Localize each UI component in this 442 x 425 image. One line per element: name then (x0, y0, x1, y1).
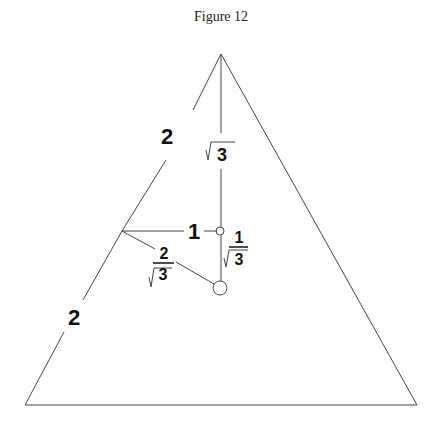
left-side-bottom (25, 332, 64, 405)
left-side-top (193, 54, 221, 110)
left-side-mid2 (83, 231, 122, 300)
slant-segment-bottom (176, 262, 214, 284)
label-altitude: 3 (217, 145, 227, 165)
label-short-numerator: 1 (235, 229, 244, 246)
small-point (216, 227, 224, 235)
left-side-mid (122, 160, 166, 231)
right-side (221, 54, 417, 405)
label-slant-numerator: 2 (160, 245, 169, 262)
label-horizontal: 1 (188, 219, 200, 244)
label-slant-denominator: 3 (159, 266, 168, 283)
label-upper-side: 2 (161, 124, 173, 149)
label-short-denominator: 3 (235, 251, 244, 268)
label-lower-side: 2 (68, 305, 80, 330)
center-point (213, 281, 227, 295)
triangle-diagram: 2 2 3 1 2 3 1 3 (0, 0, 442, 425)
slant-segment-top (122, 231, 155, 249)
